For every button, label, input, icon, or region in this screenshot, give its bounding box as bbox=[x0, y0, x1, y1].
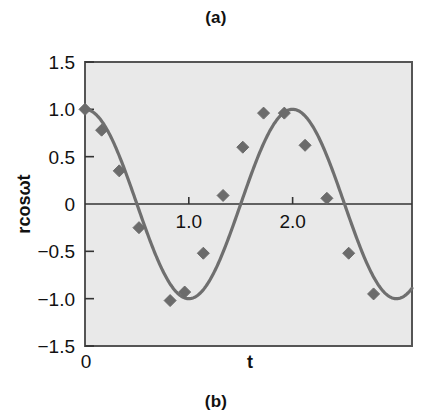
x-tick-label-0: 0 bbox=[81, 351, 92, 372]
cosine-chart-svg: 1.51.00.50−0.5−1.0−1.5 01.02.0 rcosωt t bbox=[0, 0, 432, 419]
y-tick-label-1: 1.0 bbox=[49, 99, 75, 120]
y-tick-label-4: −0.5 bbox=[37, 241, 75, 262]
y-tick-label-2: 0.5 bbox=[49, 147, 75, 168]
figure-panel-b: (a) 1.51.00.50−0.5−1.0−1.5 01.02.0 rcosω… bbox=[0, 0, 432, 419]
x-axis-title: t bbox=[247, 352, 253, 372]
figure-caption-b: (b) bbox=[0, 392, 432, 412]
x-tick-label-1: 1.0 bbox=[176, 211, 202, 232]
y-tick-label-6: −1.5 bbox=[37, 336, 75, 357]
y-tick-labels: 1.51.00.50−0.5−1.0−1.5 bbox=[37, 52, 75, 357]
y-tick-label-0: 1.5 bbox=[49, 52, 75, 73]
y-tick-label-3: 0 bbox=[64, 194, 75, 215]
x-tick-label-2: 2.0 bbox=[279, 211, 305, 232]
y-axis-title: rcosωt bbox=[14, 174, 34, 233]
chart-plot-area: 1.51.00.50−0.5−1.0−1.5 01.02.0 rcosωt t bbox=[0, 0, 432, 419]
y-tick-label-5: −1.0 bbox=[37, 289, 75, 310]
